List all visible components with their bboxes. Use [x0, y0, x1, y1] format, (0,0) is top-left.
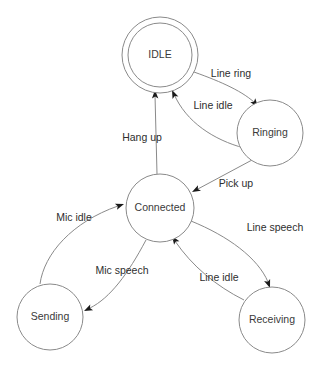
- state-diagram-svg: IDLERingingConnectedSendingReceiving Lin…: [0, 0, 322, 379]
- state-label-idle: IDLE: [148, 48, 171, 60]
- transition-labels-layer: Line ringLine idlePick upHang upMic idle…: [56, 67, 303, 283]
- transition-label-ringing-to-connected: Pick up: [219, 177, 254, 189]
- states-layer: IDLERingingConnectedSendingReceiving: [17, 17, 305, 353]
- state-node-connected[interactable]: Connected: [126, 174, 194, 242]
- transition-label-connected-to-receiving: Line speech: [247, 221, 304, 233]
- transition-receiving-to-connected: [169, 234, 244, 300]
- transition-label-ringing-to-idle: Line idle: [193, 99, 232, 111]
- arrowhead-icon: [83, 304, 93, 313]
- transition-ringing-to-idle: [169, 89, 244, 148]
- arrowhead-icon: [115, 201, 125, 210]
- state-label-sending: Sending: [31, 310, 70, 322]
- state-label-ringing: Ringing: [252, 126, 288, 138]
- state-node-receiving[interactable]: Receiving: [239, 287, 305, 353]
- state-label-receiving: Receiving: [249, 313, 295, 325]
- state-label-connected: Connected: [135, 201, 186, 213]
- arrowhead-icon: [190, 185, 201, 195]
- state-diagram-canvas: IDLERingingConnectedSendingReceiving Lin…: [0, 0, 322, 379]
- transition-label-connected-to-sending: Mic speech: [95, 264, 148, 276]
- transition-label-receiving-to-connected: Line idle: [199, 271, 238, 283]
- state-node-idle[interactable]: IDLE: [122, 17, 198, 93]
- state-node-sending[interactable]: Sending: [17, 284, 83, 350]
- state-node-ringing[interactable]: Ringing: [237, 100, 303, 166]
- transition-label-sending-to-connected: Mic idle: [56, 211, 92, 223]
- transition-label-idle-to-ringing: Line ring: [211, 67, 251, 79]
- transition-connected-to-sending: [83, 240, 146, 314]
- transition-label-connected-to-idle: Hang up: [122, 131, 162, 143]
